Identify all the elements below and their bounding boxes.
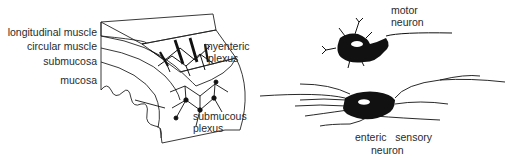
label-mucosa: mucosa (60, 74, 97, 86)
label-motor-neuron: neuron (391, 16, 424, 28)
label-motor: motor (391, 4, 418, 16)
label-enteric-sensory: enteric sensory (355, 131, 432, 143)
label-enteric-neuron: neuron (371, 144, 404, 156)
label-submucous-line1: submucous (193, 110, 247, 122)
label-submucosa: submucosa (43, 55, 97, 67)
label-myenteric-line2: plexus (208, 52, 238, 64)
enteric-sensory-neuron (260, 76, 505, 127)
label-longitudinal-muscle: longitudinal muscle (8, 26, 97, 38)
label-circular-muscle: circular muscle (27, 40, 97, 52)
gut-wall-section (101, 14, 245, 143)
label-myenteric-line1: myenteric (204, 40, 250, 52)
label-submucous-line2: plexus (193, 122, 223, 134)
motor-neuron (322, 18, 452, 68)
